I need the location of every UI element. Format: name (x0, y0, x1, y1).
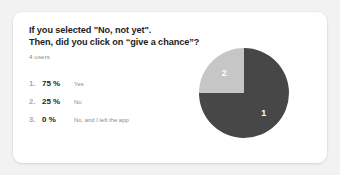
pie-chart: 1 2 (199, 48, 289, 138)
results-list: 1. 75 % Yes 2. 25 % No 3. 0 % No, and I … (29, 79, 214, 133)
pie-chart-container: 1 2 (199, 48, 289, 138)
question-line-1: If you selected "No, not yet". (29, 25, 229, 37)
result-percent: 0 % (42, 115, 70, 124)
pie-slices (199, 48, 289, 138)
pie-slice-label-2: 2 (222, 68, 227, 78)
result-rank: 3. (29, 115, 42, 124)
list-item: 3. 0 % No, and I left the app (29, 115, 214, 133)
pie-slice-label-1: 1 (261, 108, 266, 118)
list-item: 2. 25 % No (29, 97, 214, 115)
result-label: No (70, 99, 82, 105)
result-rank: 1. (29, 79, 42, 88)
poll-result-card: If you selected "No, not yet". Then, did… (13, 12, 327, 163)
result-rank: 2. (29, 97, 42, 106)
list-item: 1. 75 % Yes (29, 79, 214, 97)
result-label: No, and I left the app (70, 117, 129, 123)
result-label: Yes (70, 81, 84, 87)
result-percent: 75 % (42, 79, 70, 88)
question-line-2: Then, did you click on “give a chance”? (29, 37, 229, 49)
result-percent: 25 % (42, 97, 70, 106)
